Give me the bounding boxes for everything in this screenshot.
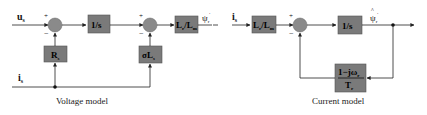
voltage-model: us + − 1/s + − Lr/Lm ψr' Rs σLs: [12, 11, 212, 106]
summing-junction-2: [143, 18, 157, 32]
summing-junction-1: [48, 18, 62, 32]
integrator-label: 1/s: [342, 21, 353, 31]
svg-text:+: +: [289, 12, 293, 20]
is-label: is: [232, 11, 238, 23]
current-model: is Lr/Lm + − 1/s ψr' ^ 1−jωr Tr Current …: [213, 7, 414, 106]
plus-sign: +: [44, 12, 48, 20]
svg-text:+: +: [139, 12, 143, 20]
current-model-caption: Current model: [312, 96, 365, 106]
psi-r-output-label: ψr': [202, 12, 210, 24]
voltage-model-caption: Voltage model: [56, 96, 109, 106]
psi-r-output-label: ψr': [370, 12, 378, 24]
us-label: us: [17, 11, 26, 23]
svg-text:−: −: [289, 29, 294, 38]
branch-point: [53, 85, 57, 89]
psi-hat-accent: ^: [371, 7, 374, 13]
integrator-label: 1/s: [91, 20, 102, 30]
minus-sign: −: [44, 29, 49, 38]
feedback-numerator: 1−jωr: [338, 67, 360, 78]
svg-text:−: −: [139, 29, 144, 38]
is-label: is: [18, 72, 24, 84]
block-diagram: us + − 1/s + − Lr/Lm ψr' Rs σLs: [0, 0, 427, 115]
summing-junction: [293, 18, 307, 32]
